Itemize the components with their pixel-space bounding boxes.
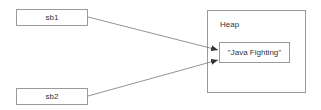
- arrow-sb1-to-object: [88, 17, 218, 50]
- arrow-sb2-to-object: [88, 60, 218, 96]
- reference-arrows: [0, 0, 321, 110]
